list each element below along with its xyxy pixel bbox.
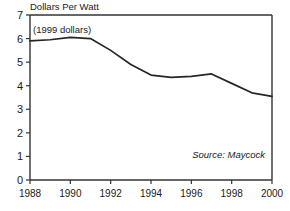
- x-axis-tick-label: 1988: [19, 188, 42, 199]
- line-chart: Dollars Per Watt (1999 dollars) 01234567…: [0, 0, 290, 211]
- y-axis-tick-label: 2: [17, 127, 23, 139]
- x-axis-tick-label: 1998: [221, 188, 244, 199]
- y-axis-tick-label: 0: [17, 174, 23, 186]
- source-annotation: Source: Maycock: [192, 149, 266, 160]
- y-axis-tick-label: 6: [17, 33, 23, 45]
- x-axis-tick-label: 1992: [100, 188, 123, 199]
- y-axis-tick-label: 5: [17, 56, 23, 68]
- x-axis-tick-label: 1996: [180, 188, 203, 199]
- x-axis-tick-label: 1990: [59, 188, 82, 199]
- x-axis-tick-label: 1994: [140, 188, 163, 199]
- chart-subtitle: (1999 dollars): [33, 24, 91, 35]
- y-axis-tick-label: 7: [17, 9, 23, 21]
- y-axis-tick-label: 3: [17, 103, 23, 115]
- x-axis-tick-label: 2000: [261, 188, 284, 199]
- y-axis-tick-label: 4: [17, 80, 23, 92]
- chart-title: Dollars Per Watt: [30, 1, 99, 12]
- chart-container: Dollars Per Watt (1999 dollars) 01234567…: [0, 0, 290, 211]
- y-axis-tick-label: 1: [17, 150, 23, 162]
